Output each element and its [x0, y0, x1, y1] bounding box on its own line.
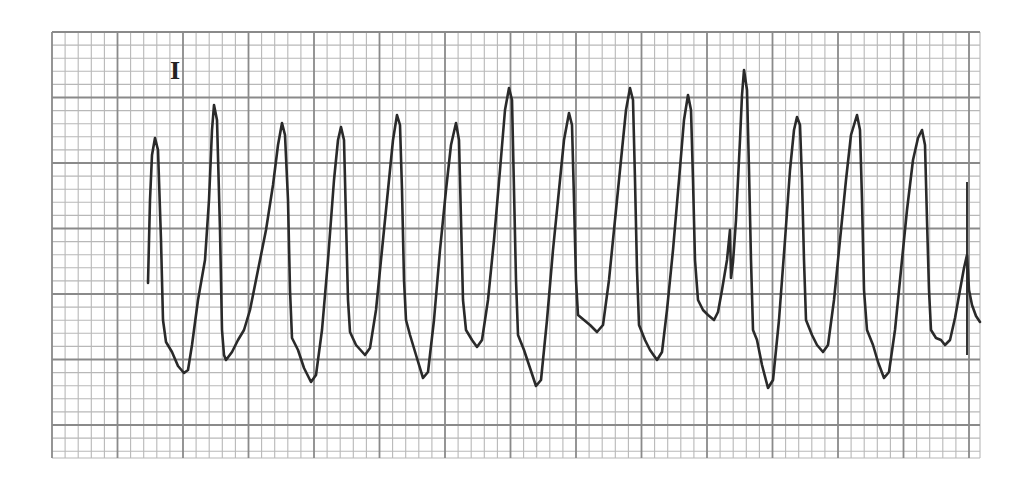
lead-label: I [170, 58, 180, 84]
ecg-strip [0, 0, 1029, 489]
